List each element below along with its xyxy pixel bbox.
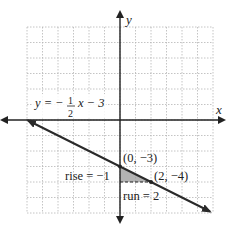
point-label-2-neg4: (2, −4) [154,169,188,183]
y-axis-label: y [124,12,132,27]
run-label: run = 2 [123,189,159,203]
slope-graph: y x y = − 1 2 x − 3 (0, −3) (2, −4) rise… [0,0,233,231]
point-2-neg4 [149,180,153,184]
svg-text:2: 2 [68,108,73,119]
point-0-neg3 [118,165,122,169]
rise-label: rise = −1 [65,169,110,183]
svg-text:y = −: y = − [33,96,64,110]
equation-line-start [28,121,120,167]
svg-text:x − 3: x − 3 [77,96,104,110]
equation-label: y = − 1 2 x − 3 [32,94,106,119]
point-label-0-neg3: (0, −3) [123,151,157,165]
svg-text:1: 1 [68,95,73,106]
x-axis-label: x [215,102,222,117]
